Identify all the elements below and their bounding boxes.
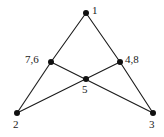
graph-edge — [17, 62, 120, 113]
node-label-apex: 1 — [92, 5, 98, 16]
graph-edge — [51, 13, 86, 62]
node-label-center: 5 — [82, 84, 88, 95]
graph-node-bottomright[interactable] — [150, 110, 156, 116]
node-label-left: 7,6 — [25, 54, 39, 65]
graph-edge — [17, 62, 51, 113]
graph-node-left[interactable] — [48, 59, 54, 65]
graph-edge — [51, 62, 153, 113]
graph-node-bottomleft[interactable] — [14, 110, 20, 116]
graph-diagram: 17,64,8523 — [0, 0, 164, 137]
graph-edge — [86, 13, 120, 62]
node-label-right: 4,8 — [125, 54, 139, 65]
node-label-bottomright: 3 — [149, 119, 155, 130]
node-label-bottomleft: 2 — [13, 119, 19, 130]
graph-node-right[interactable] — [117, 59, 123, 65]
graph-node-center[interactable] — [83, 76, 89, 82]
graph-canvas — [0, 0, 164, 137]
graph-node-apex[interactable] — [83, 10, 89, 16]
